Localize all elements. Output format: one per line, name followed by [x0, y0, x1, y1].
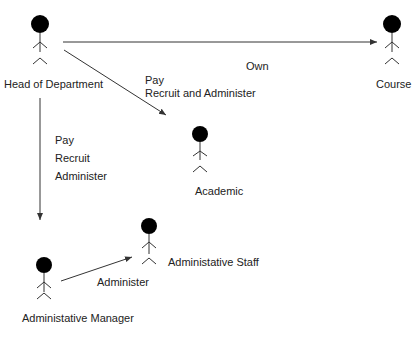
actor-administative-manager-icon[interactable]: [36, 257, 52, 299]
association-label-academic-pay: Pay: [145, 74, 164, 87]
association-label-own: Own: [246, 60, 269, 73]
actor-label-administative-manager: Administative Manager: [22, 312, 134, 325]
association-label-manager-administer: Administer: [55, 170, 107, 183]
association-label-manager-pay: Pay: [55, 134, 74, 147]
actor-label-head-of-department: Head of Department: [4, 78, 103, 91]
association-label-academic-recruit: Recruit and Administer: [145, 87, 256, 100]
actor-label-academic: Academic: [195, 185, 243, 198]
association-label-manager-recruit: Recruit: [55, 152, 90, 165]
actor-label-administative-staff: Administative Staff: [168, 256, 259, 269]
actor-head-of-department-icon[interactable]: [31, 15, 49, 64]
actor-academic-icon[interactable]: [192, 126, 208, 172]
association-label-staff-administer: Administer: [97, 276, 149, 289]
actor-label-course: Course: [376, 78, 411, 91]
actor-course-icon[interactable]: [383, 15, 401, 64]
actor-administative-staff-icon[interactable]: [141, 218, 157, 264]
